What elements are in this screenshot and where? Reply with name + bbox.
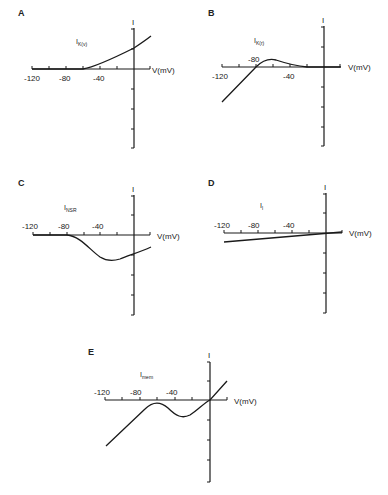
panel-e: E Imem -120 -80 -40 V(mV) I: [88, 347, 257, 482]
panel-letter: E: [88, 347, 94, 357]
panel-letter: C: [18, 178, 25, 188]
y-axis-label: I: [132, 18, 134, 27]
tick-label: -120: [22, 222, 39, 231]
y-axis-label: I: [322, 16, 324, 25]
tick-label: -40: [93, 74, 105, 83]
curve-insr: [33, 235, 151, 261]
y-axis-label: I: [324, 183, 326, 192]
current-label: IK(v): [76, 38, 87, 47]
tick-label: -120: [214, 221, 231, 230]
x-axis-label: V(mV): [349, 229, 372, 238]
current-label: INSR: [64, 204, 77, 213]
y-axis-label: I: [208, 351, 210, 360]
y-axis-label: I: [132, 185, 134, 194]
tick-label: -80: [58, 222, 70, 231]
panel-d: D Il -120 -80 -40 V(mV) I: [208, 178, 372, 313]
current-label: Imem: [140, 371, 153, 380]
tick-label: -40: [283, 221, 295, 230]
x-axis-label: V(mV): [348, 63, 371, 72]
curve-ik-r: [222, 59, 341, 102]
tick-label: -120: [94, 388, 111, 397]
x-axis-label: V(mV): [234, 397, 257, 406]
x-axis-label: V(mV): [152, 66, 175, 75]
figure-canvas: A IK(v) -120 -80 -40 V(mV) I B IK(r): [0, 0, 388, 495]
panel-letter: A: [18, 8, 25, 18]
current-label: Il: [260, 202, 263, 211]
panel-a: A IK(v) -120 -80 -40 V(mV) I: [18, 8, 175, 148]
curve-ik-v: [32, 36, 151, 69]
x-axis-label: V(mV): [157, 232, 180, 241]
tick-label: -120: [212, 72, 229, 81]
tick-label: -40: [92, 222, 104, 231]
tick-label: -80: [130, 388, 142, 397]
tick-label: -80: [248, 221, 260, 230]
tick-label: -80: [248, 55, 260, 64]
panel-c: C INSR -120 -80 -40 V(mV) I: [18, 178, 180, 315]
tick-label: -40: [166, 388, 178, 397]
tick-label: -120: [24, 74, 41, 83]
panel-letter: D: [208, 178, 215, 188]
panel-b: B IK(r) -120 -80 -40 V(mV) I: [208, 8, 371, 146]
tick-label: -80: [59, 74, 71, 83]
tick-label: -40: [283, 72, 295, 81]
panel-letter: B: [208, 8, 215, 18]
current-label: IK(r): [254, 37, 265, 46]
